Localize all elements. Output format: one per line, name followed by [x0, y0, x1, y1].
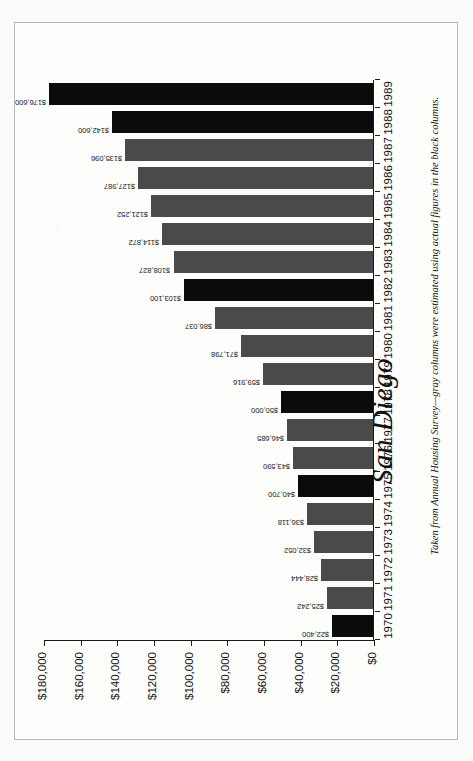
category-tick [375, 247, 380, 248]
bar-value-label: $25,242 [297, 602, 324, 611]
year-label-1973: 1973 [382, 528, 394, 556]
bar-slot: $25,242 [44, 584, 373, 612]
year-label-1989: 1989 [382, 80, 394, 108]
bar-value-label: $32,052 [285, 546, 312, 555]
bar-1989[interactable] [49, 83, 373, 105]
bar-slot: $32,052 [44, 528, 373, 556]
bar-slot: $103,100 [44, 276, 373, 304]
bar-slot: $46,685 [44, 416, 373, 444]
bar-slot: $176,600 [44, 80, 373, 108]
bar-1985[interactable] [151, 195, 373, 217]
value-tick [301, 640, 302, 646]
year-label-1976: 1976 [382, 444, 394, 472]
bar-slot: $127,987 [44, 164, 373, 192]
year-label-1985: 1985 [382, 192, 394, 220]
chart-footnote: Taken from Annual Housing Survey—gray co… [429, 97, 440, 555]
bar-slot: $22,400 [44, 612, 373, 640]
bar-1983[interactable] [174, 251, 374, 273]
category-tick [375, 443, 380, 444]
bar-1971[interactable] [327, 587, 373, 609]
bar-1984[interactable] [162, 223, 373, 245]
category-tick [375, 639, 380, 640]
category-tick [375, 135, 380, 136]
bar-slot: $135,096 [44, 136, 373, 164]
year-label-1972: 1972 [382, 556, 394, 584]
category-axis-labels: 1970197119721973197419751976197719781979… [382, 80, 394, 640]
year-label-1981: 1981 [382, 304, 394, 332]
bar-value-label: $142,600 [78, 126, 109, 135]
year-label-1982: 1982 [382, 276, 394, 304]
bar-value-label: $36,118 [278, 518, 304, 527]
year-label-1974: 1974 [382, 500, 394, 528]
bar-series: $22,400$25,242$28,444$32,052$36,118$40,7… [44, 80, 373, 640]
bar-1978[interactable] [281, 391, 373, 413]
bar-1970[interactable] [332, 615, 373, 637]
value-tick [191, 640, 192, 646]
bar-1973[interactable] [314, 531, 373, 553]
value-tick-label: $140,000 [109, 652, 121, 740]
bar-1980[interactable] [241, 335, 373, 357]
category-tick [375, 555, 380, 556]
category-tick [375, 275, 380, 276]
bar-value-label: $59,916 [233, 378, 260, 387]
value-tick [117, 640, 118, 646]
rotated-chart-container: San Diego Taken from Annual Housing Surv… [14, 22, 458, 740]
scanned-page: San Diego Taken from Annual Housing Surv… [0, 0, 473, 761]
bar-value-label: $40,700 [269, 490, 296, 499]
bar-value-label: $103,100 [150, 294, 181, 303]
bar-1972[interactable] [321, 559, 373, 581]
bar-value-label: $176,600 [15, 98, 46, 107]
bar-1975[interactable] [298, 475, 373, 497]
bar-slot: $40,700 [44, 472, 373, 500]
year-label-1984: 1984 [382, 220, 394, 248]
bar-1986[interactable] [138, 167, 373, 189]
bar-value-label: $46,685 [258, 434, 285, 443]
bar-value-label: $127,987 [104, 182, 135, 191]
category-tick [375, 527, 380, 528]
bar-1982[interactable] [184, 279, 373, 301]
bar-value-label: $86,037 [186, 322, 213, 331]
year-label-1970: 1970 [382, 612, 394, 640]
bar-value-label: $28,444 [291, 574, 318, 583]
bar-value-label: $135,096 [91, 154, 122, 163]
bar-1979[interactable] [263, 363, 373, 385]
category-tick [375, 611, 380, 612]
value-tick [264, 640, 265, 646]
year-label-1971: 1971 [382, 584, 394, 612]
value-tick-label: $0 [366, 652, 378, 740]
bar-value-label: $22,400 [302, 630, 329, 639]
year-label-1986: 1986 [382, 164, 394, 192]
bar-1977[interactable] [287, 419, 373, 441]
category-tick [375, 219, 380, 220]
bar-value-label: $108,827 [140, 266, 171, 275]
year-label-1988: 1988 [382, 108, 394, 136]
category-tick [375, 471, 380, 472]
value-tick-label: $180,000 [36, 652, 48, 740]
category-tick [375, 163, 380, 164]
value-tick [374, 640, 375, 646]
bar-slot: $142,600 [44, 108, 373, 136]
value-tick-label: $40,000 [293, 652, 305, 740]
bar-slot: $71,798 [44, 332, 373, 360]
bar-slot: $108,827 [44, 248, 373, 276]
value-tick [227, 640, 228, 646]
value-tick-label: $60,000 [256, 652, 268, 740]
value-tick [154, 640, 155, 646]
year-label-1979: 1979 [382, 360, 394, 388]
bar-slot: $36,118 [44, 500, 373, 528]
value-tick-label: $120,000 [146, 652, 158, 740]
plot-area: $22,400$25,242$28,444$32,052$36,118$40,7… [44, 80, 374, 640]
category-tick [375, 107, 380, 108]
bar-1974[interactable] [307, 503, 373, 525]
bar-value-label: $50,000 [252, 406, 279, 415]
bar-1987[interactable] [125, 139, 373, 161]
category-tick [375, 79, 380, 80]
category-tick [375, 583, 380, 584]
bar-slot: $114,872 [44, 220, 373, 248]
bar-1988[interactable] [112, 111, 373, 133]
bar-1981[interactable] [215, 307, 373, 329]
category-tick [375, 415, 380, 416]
bar-slot: $86,037 [44, 304, 373, 332]
bar-1976[interactable] [293, 447, 373, 469]
bar-slot: $121,252 [44, 192, 373, 220]
